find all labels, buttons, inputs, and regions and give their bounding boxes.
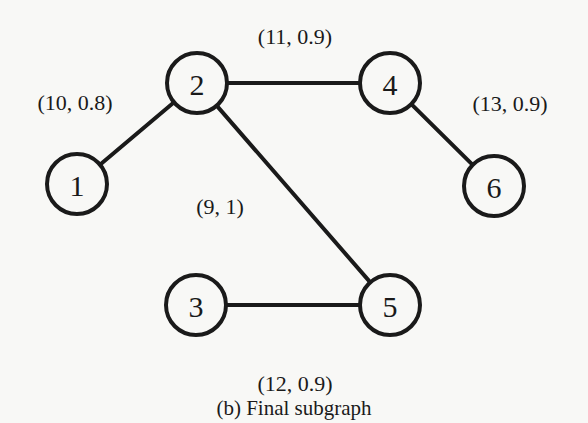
node-label: 6 <box>487 171 502 204</box>
node-6: 6 <box>464 156 524 216</box>
node-2: 2 <box>167 53 227 113</box>
node-label: 4 <box>383 68 398 101</box>
edges-group <box>100 83 473 305</box>
edge-label-3-5: (12, 0.9) <box>257 371 332 396</box>
nodes-group: 123456 <box>47 53 524 335</box>
edge-label-4-6: (13, 0.9) <box>472 91 547 116</box>
figure-caption: (b) Final subgraph <box>0 396 588 421</box>
edge-label-2-4: (11, 0.9) <box>258 24 332 49</box>
node-5: 5 <box>360 275 420 335</box>
node-label: 3 <box>189 290 204 323</box>
edge-labels-group: (10, 0.8)(11, 0.9)(9, 1)(13, 0.9)(12, 0.… <box>37 24 547 396</box>
node-4: 4 <box>360 53 420 113</box>
edge-label-1-2: (10, 0.8) <box>37 90 112 115</box>
node-3: 3 <box>166 275 226 335</box>
edge-label-2-5: (9, 1) <box>196 194 244 219</box>
node-label: 5 <box>383 290 398 323</box>
graph-diagram: 123456 (10, 0.8)(11, 0.9)(9, 1)(13, 0.9)… <box>0 0 588 423</box>
node-label: 2 <box>190 68 205 101</box>
node-label: 1 <box>70 169 85 202</box>
edge-4-6 <box>411 104 472 165</box>
node-1: 1 <box>47 154 107 214</box>
